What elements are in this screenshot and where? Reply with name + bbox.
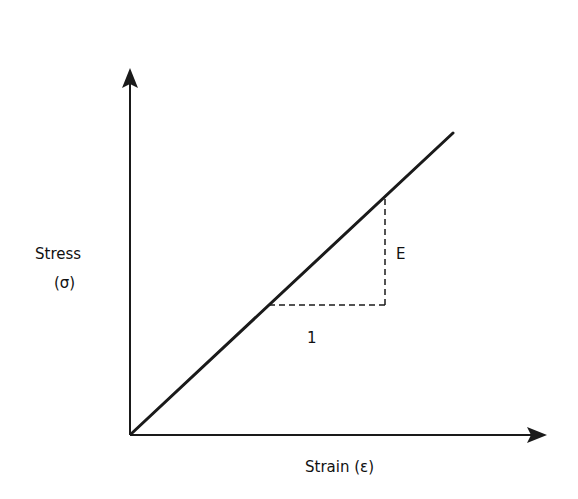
y-axis-label: Stress: [35, 245, 81, 263]
slope-rise-label: E: [396, 245, 405, 263]
stress-strain-diagram: E 1 Stress (σ) Strain (ε): [0, 0, 578, 499]
slope-run-label: 1: [307, 329, 317, 347]
stress-strain-line: [131, 133, 453, 434]
y-axis-symbol: (σ): [54, 274, 75, 292]
x-axis-label: Strain (ε): [305, 458, 374, 476]
